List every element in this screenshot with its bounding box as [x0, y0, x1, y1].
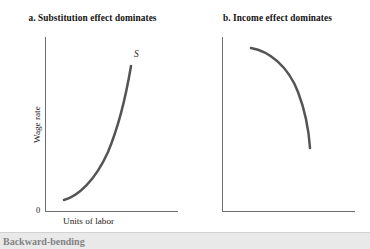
chart-panel-b: b. Income effect dominates 0 Units of la… [185, 0, 370, 232]
figure-caption: Backward-bending [3, 238, 85, 247]
panel-a-y-axis-label: Wage rate [32, 106, 42, 143]
chart-panel-a: a. Substitution effect dominates 0 Units… [0, 0, 185, 232]
panel-a-curve-label: S [134, 49, 139, 59]
panel-b-axes [223, 37, 356, 212]
panel-b-plot [185, 0, 370, 232]
panel-a-axes [46, 37, 179, 212]
panel-a-x-axis-label: Units of labor [63, 216, 114, 226]
footer-caption-clip: Backward-bending [0, 238, 370, 249]
panel-a-supply-curve [64, 66, 131, 200]
panel-a-plot [0, 0, 185, 232]
panel-a-origin-label: 0 [36, 205, 40, 215]
panel-b-supply-curve [251, 48, 310, 148]
figure-root: a. Substitution effect dominates 0 Units… [0, 0, 370, 249]
